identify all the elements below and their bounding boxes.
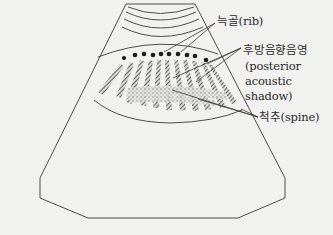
- rib-dot-icon: [204, 58, 209, 63]
- rib-dot-icon: [176, 52, 181, 57]
- rib-dot-icon: [193, 54, 198, 59]
- posterior-acoustic-shadow: [98, 60, 237, 111]
- near-field-arcs: [122, 7, 203, 37]
- rib-dot-icon: [151, 53, 156, 58]
- rib-dot-icon: [185, 53, 190, 58]
- spine-label: 척추(spine): [259, 111, 319, 124]
- shadow-label-english-1: (posterior: [245, 60, 301, 73]
- shadow-label-english-2: acoustic: [245, 75, 292, 88]
- pleural-line: [98, 44, 218, 57]
- rib-dot-icon: [142, 52, 147, 57]
- rib-label: 늑골(rib): [217, 15, 263, 28]
- rib-dot-icon: [159, 52, 164, 57]
- rib-dot-icon: [133, 53, 138, 58]
- rib-dot-icon: [122, 56, 126, 60]
- rib-dot-icon: [167, 52, 172, 57]
- shadow-label-korean: 후방음향음영: [243, 44, 308, 57]
- shadow-label-english-3: shadow): [245, 90, 292, 103]
